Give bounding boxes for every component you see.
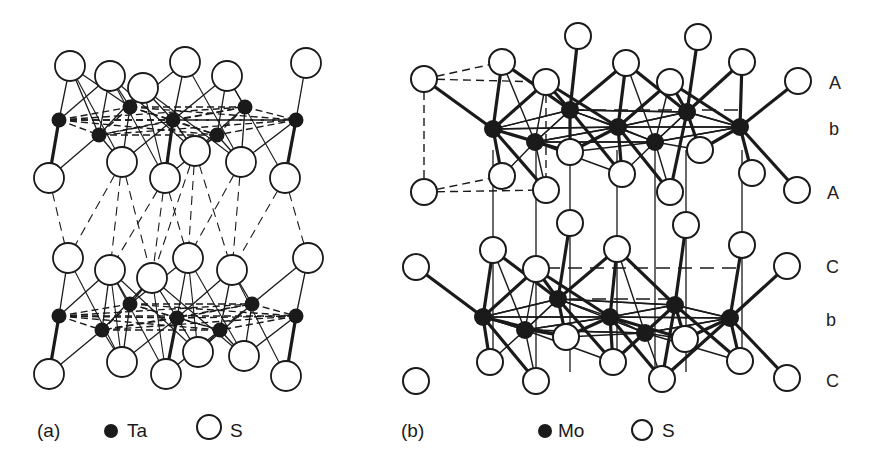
mo-mo-line bbox=[493, 127, 618, 129]
tantalum-atom bbox=[170, 311, 185, 326]
ta-ta-dashed bbox=[99, 120, 296, 135]
molybdenum-atom bbox=[601, 308, 619, 326]
sulfur-atom bbox=[489, 49, 515, 75]
sulfur-atom bbox=[34, 163, 64, 193]
tantalum-atom bbox=[123, 297, 138, 312]
interlayer-dashed bbox=[232, 162, 241, 270]
molybdenum-atom bbox=[646, 133, 664, 151]
sulfur-atom bbox=[270, 163, 300, 193]
sulfur-atom bbox=[784, 177, 810, 203]
sulfur-atom bbox=[657, 69, 683, 95]
panel-a-bonds bbox=[49, 62, 308, 376]
sulfur-atom bbox=[229, 341, 259, 371]
sulfur-atom bbox=[34, 359, 64, 389]
sulfur-atom bbox=[411, 66, 437, 92]
sulfur-atom bbox=[729, 49, 755, 75]
sulfur-atom bbox=[687, 137, 713, 163]
tantalum-atom bbox=[123, 100, 138, 115]
tantalum-atom bbox=[92, 128, 107, 143]
sulfur-atom bbox=[553, 324, 579, 350]
tantalum-atom bbox=[52, 309, 67, 324]
molybdenum-atom bbox=[678, 103, 696, 121]
sulfur-atom bbox=[600, 349, 626, 375]
sulfur-atom bbox=[217, 255, 247, 285]
tantalum-atom bbox=[289, 309, 304, 324]
sulfur-atom bbox=[55, 51, 85, 81]
sulfur-atom bbox=[533, 69, 559, 95]
legend-a bbox=[104, 415, 221, 439]
sulfur-atom bbox=[685, 24, 711, 50]
panel-a-atoms bbox=[34, 47, 323, 391]
sulfur-atom bbox=[411, 179, 437, 205]
sulfur-atom bbox=[150, 163, 180, 193]
molybdenum-atom bbox=[636, 324, 654, 342]
sulfur-atom bbox=[180, 136, 210, 166]
molybdenum-atom bbox=[526, 133, 544, 151]
tantalum-atom bbox=[289, 113, 304, 128]
crystal-structure-figure bbox=[0, 0, 874, 464]
molybdenum-atom bbox=[549, 290, 567, 308]
interlayer-dashed bbox=[232, 178, 285, 270]
tantalum-atom bbox=[166, 113, 181, 128]
sulfur-atom bbox=[565, 23, 591, 49]
tantalum-atom bbox=[213, 323, 228, 338]
sulfur-atom bbox=[403, 254, 429, 280]
ta-legend-icon bbox=[104, 424, 118, 438]
molybdenum-atom bbox=[474, 308, 492, 326]
molybdenum-atom bbox=[609, 118, 627, 136]
cell-edge bbox=[424, 190, 546, 192]
sulfur-atom bbox=[53, 243, 83, 273]
tantalum-atom bbox=[238, 100, 253, 115]
sulfur-atom bbox=[271, 361, 301, 391]
legend-a-metal-text: Ta bbox=[127, 421, 147, 440]
stacking-label-C-bottom: C bbox=[826, 372, 839, 390]
legend-b-metal-text: Mo bbox=[558, 421, 584, 440]
mo-legend-icon bbox=[538, 424, 552, 438]
molybdenum-atom bbox=[561, 101, 579, 119]
sulfur-atom bbox=[609, 161, 635, 187]
sulfur-atom bbox=[557, 210, 583, 236]
interlayer-dashed bbox=[110, 162, 122, 270]
sulfur-atom bbox=[291, 48, 321, 78]
stacking-label-b-top: b bbox=[829, 120, 839, 138]
sulfur-atom bbox=[170, 47, 200, 77]
panel-a-label: (a) bbox=[37, 421, 60, 440]
sulfur-atom bbox=[95, 255, 125, 285]
sulfur-atom bbox=[727, 348, 753, 374]
sulfur-atom bbox=[649, 366, 675, 392]
panel-b-label: (b) bbox=[401, 421, 424, 440]
legend-a-sulfur-text: S bbox=[230, 421, 243, 440]
sulfur-atom bbox=[183, 337, 213, 367]
stacking-label-C-top: C bbox=[826, 258, 839, 276]
sulfur-atom bbox=[774, 365, 800, 391]
sulfur-atom bbox=[557, 139, 583, 165]
interlayer-dashed bbox=[68, 162, 122, 258]
sulfur-atom bbox=[672, 326, 698, 352]
sulfur-atom bbox=[226, 147, 256, 177]
sulfur-atom bbox=[604, 236, 630, 262]
mo-mo-line bbox=[610, 317, 730, 318]
panel-b-bonds bbox=[416, 36, 798, 381]
legend-b bbox=[538, 420, 652, 440]
tantalum-atom bbox=[95, 323, 110, 338]
panel-a-structure bbox=[34, 47, 323, 391]
sulfur-atom bbox=[785, 68, 811, 94]
sulfur-atom bbox=[151, 359, 181, 389]
molybdenum-atom bbox=[731, 118, 749, 136]
interlayer-dashed bbox=[188, 162, 241, 258]
sulfur-atom bbox=[173, 243, 203, 273]
stacking-label-A-top: A bbox=[829, 74, 841, 92]
sulfur-atom bbox=[729, 232, 755, 258]
sulfur-atom bbox=[128, 73, 158, 103]
sulfur-atom bbox=[613, 50, 639, 76]
molybdenum-atom bbox=[516, 321, 534, 339]
sulfur-atom bbox=[523, 256, 549, 282]
tantalum-atom bbox=[245, 297, 260, 312]
sulfur-atom bbox=[489, 163, 515, 189]
sulfur-atom bbox=[774, 253, 800, 279]
stacking-label-A-bottom: A bbox=[827, 184, 839, 202]
sulfur-atom bbox=[212, 61, 242, 91]
sulfur-atom bbox=[533, 177, 559, 203]
sulfur-atom bbox=[673, 212, 699, 238]
legend-b-sulfur-text: S bbox=[662, 421, 675, 440]
